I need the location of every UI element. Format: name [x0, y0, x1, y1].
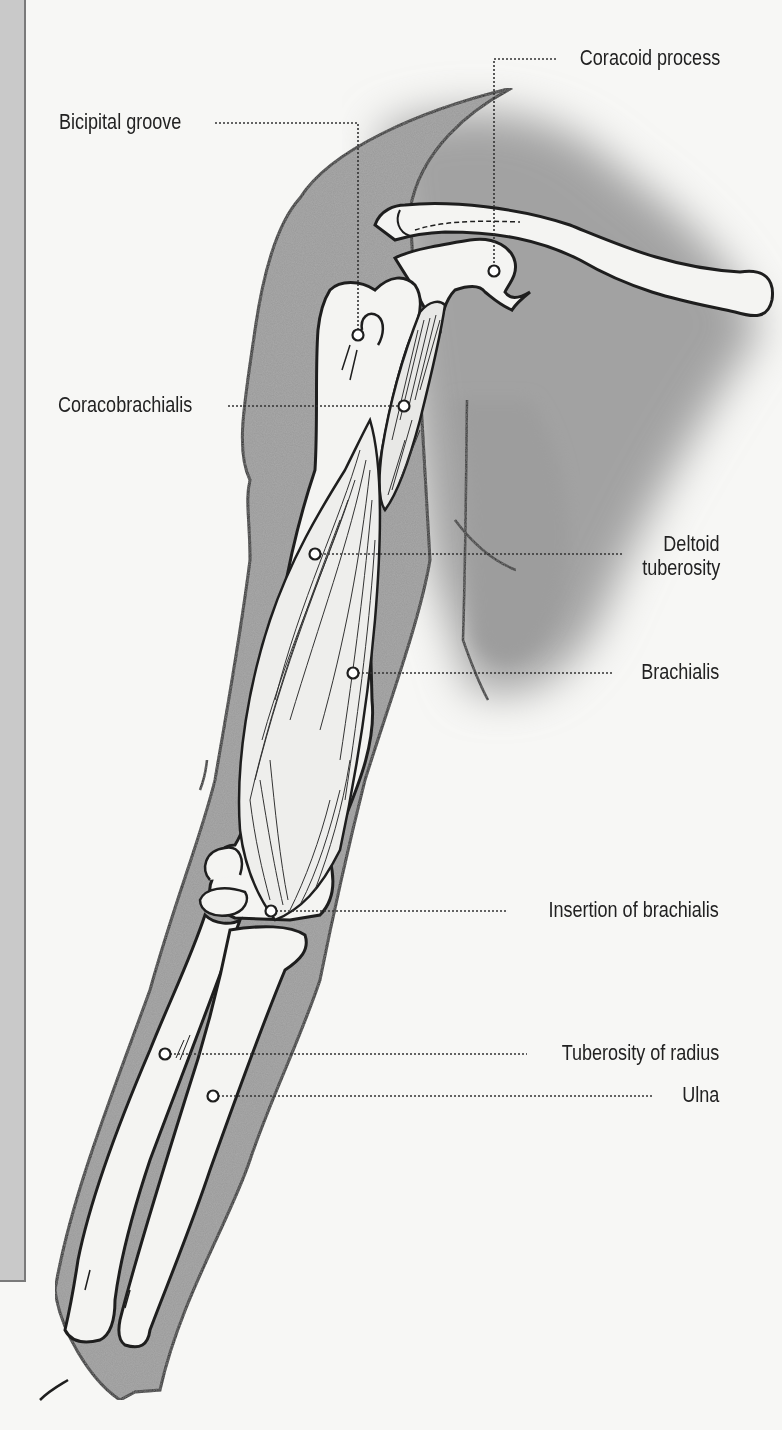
label-brachialis: Brachialis [641, 660, 719, 684]
label-tuberosity-of-radius: Tuberosity of radius [561, 1041, 719, 1065]
label-deltoid-tuberosity-line1: Deltoid [663, 532, 719, 556]
marker-coracoid-process [489, 266, 500, 277]
wrist-outline [40, 1380, 68, 1400]
label-deltoid-tuberosity-line2: tuberosity [642, 556, 720, 580]
label-coracoid-process: Coracoid process [580, 46, 720, 70]
marker-insertion-of-brachialis [266, 906, 277, 917]
label-insertion-of-brachialis: Insertion of brachialis [549, 898, 719, 922]
shoulder-shadow [380, 111, 760, 693]
marker-deltoid-tuberosity [310, 549, 321, 560]
marker-ulna [208, 1091, 219, 1102]
arm-illustration [0, 0, 782, 1430]
marker-tuberosity-of-radius [160, 1049, 171, 1060]
marker-bicipital-groove [353, 330, 364, 341]
elbow-crease [200, 760, 207, 790]
label-ulna: Ulna [682, 1083, 719, 1107]
label-coracobrachialis: Coracobrachialis [58, 393, 192, 417]
marker-coracobrachialis [399, 401, 410, 412]
marker-brachialis [348, 668, 359, 679]
radius-head [200, 888, 247, 915]
elbow-condyle [205, 848, 242, 880]
label-bicipital-groove: Bicipital groove [59, 110, 181, 134]
